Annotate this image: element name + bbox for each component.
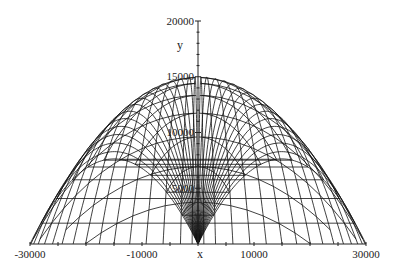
y-tick-label: 20000	[167, 15, 195, 27]
y-tick-label: 10000	[167, 126, 195, 138]
x-tick-label: 30000	[352, 248, 380, 260]
x-tick-label: -10000	[126, 248, 158, 260]
trajectory-chart: -30000 -10000 10000 30000 5000 10000 150…	[0, 0, 398, 271]
trajectory-line	[198, 119, 343, 244]
y-axis-label: y	[177, 38, 183, 52]
x-axis-label: x	[197, 247, 203, 261]
trajectory-line	[198, 111, 334, 244]
x-tick-label: 10000	[240, 248, 268, 260]
x-tick-label: -30000	[14, 248, 46, 260]
y-tick-label: 5000	[172, 182, 195, 194]
y-tick-label: 15000	[167, 70, 195, 82]
